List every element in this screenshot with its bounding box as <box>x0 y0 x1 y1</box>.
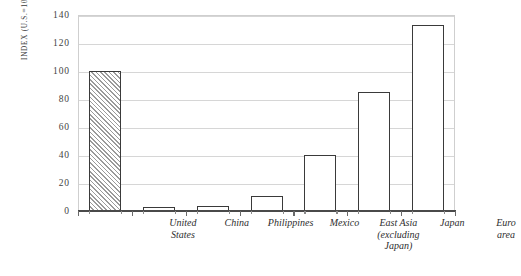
x-axis-category-label: China <box>210 217 264 229</box>
x-axis-tick <box>132 211 133 216</box>
x-axis-tick <box>390 211 391 214</box>
y-axis-tick-label: 80 <box>36 94 70 104</box>
bars-layer <box>78 15 455 211</box>
x-axis-category-label: Euro area <box>479 217 521 240</box>
x-axis-tick <box>336 211 337 214</box>
x-axis-tick <box>304 211 305 214</box>
bar <box>89 71 121 211</box>
x-axis-category-label: East Asia (excluding Japan) <box>371 217 425 252</box>
x-axis-category-label: Japan <box>425 217 479 229</box>
x-axis-tick <box>175 211 176 214</box>
x-axis-category-label: United States <box>156 217 210 240</box>
x-axis-category-label: Philippines <box>264 217 318 229</box>
x-axis-tick <box>455 211 456 216</box>
y-axis-tick-label: 140 <box>36 10 70 20</box>
x-axis-tick <box>143 211 144 214</box>
x-axis-tick <box>358 211 359 214</box>
y-axis-tick-label: 40 <box>36 150 70 160</box>
x-axis-tick <box>240 211 241 216</box>
bar <box>304 155 336 211</box>
x-axis-tick <box>89 211 90 214</box>
y-axis-title: INDEX (U.S.=100) <box>18 0 32 60</box>
bar <box>358 92 390 211</box>
y-axis-tick-label: 0 <box>36 206 70 216</box>
x-axis-line <box>78 210 456 212</box>
bar <box>412 25 444 211</box>
y-axis-tick-label: 100 <box>36 66 70 76</box>
y-axis-tick-label: 20 <box>36 178 70 188</box>
y-axis-tick-label: 60 <box>36 122 70 132</box>
x-axis-category-label: Mexico <box>318 217 372 229</box>
x-axis-tick <box>229 211 230 214</box>
y-axis-tick-labels: 020406080100120140 <box>36 0 70 276</box>
x-axis-tick <box>186 211 187 216</box>
x-axis-tick <box>444 211 445 214</box>
x-axis-tick <box>121 211 122 214</box>
x-axis-tick <box>78 211 79 216</box>
x-axis-tick <box>347 211 348 216</box>
x-axis-tick <box>197 211 198 214</box>
y-axis-tick-label: 120 <box>36 38 70 48</box>
x-axis-tick <box>293 211 294 216</box>
x-axis-category-labels: United StatesChinaPhilippinesMexicoEast … <box>78 217 455 275</box>
x-axis-tick <box>283 211 284 214</box>
x-axis-tick <box>251 211 252 214</box>
bar <box>251 196 283 211</box>
x-axis-tick <box>401 211 402 216</box>
x-axis-tick <box>412 211 413 214</box>
